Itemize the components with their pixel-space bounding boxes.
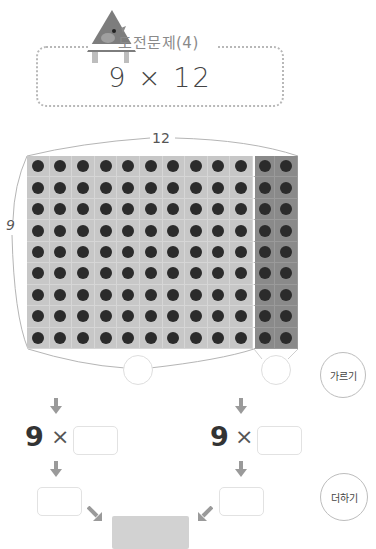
grid-cell (163, 177, 186, 198)
dot (190, 203, 202, 215)
right-part-circle[interactable] (261, 355, 291, 385)
dot (122, 182, 134, 194)
grid-cell (117, 263, 140, 284)
grid-cell (117, 177, 140, 198)
grid-cell (163, 156, 186, 177)
dot (190, 182, 202, 194)
arrow-down-icon (50, 398, 62, 414)
grid-cell (163, 263, 186, 284)
dot (259, 332, 271, 344)
dot (190, 310, 202, 322)
grid-cell (50, 306, 73, 327)
dot (280, 246, 292, 258)
grid-cell (50, 285, 73, 306)
grid-cell (253, 156, 276, 177)
grid-cell (275, 306, 298, 327)
dot (100, 332, 112, 344)
dot (54, 289, 66, 301)
grid-cell (27, 328, 50, 349)
sum-input[interactable] (112, 516, 189, 549)
dot (167, 203, 179, 215)
grid-cell (230, 306, 253, 327)
dot (32, 246, 44, 258)
right-multiplier-input[interactable] (257, 426, 302, 455)
grid-cell (72, 220, 95, 241)
dot (167, 182, 179, 194)
grid-cell (230, 156, 253, 177)
grid-cell (140, 242, 163, 263)
dot (122, 332, 134, 344)
grid-cell (230, 199, 253, 220)
grid-cell (275, 220, 298, 241)
grid-cell (230, 285, 253, 306)
dot (167, 267, 179, 279)
dot (54, 225, 66, 237)
arrow-down-right-icon (87, 506, 103, 522)
grid-cell (230, 263, 253, 284)
grid-cell (50, 242, 73, 263)
grid-cell (208, 177, 231, 198)
grid-cell (27, 306, 50, 327)
dot (235, 246, 247, 258)
dot (212, 160, 224, 172)
grid-cell (253, 242, 276, 263)
left-product-input[interactable] (37, 487, 82, 516)
dot (100, 246, 112, 258)
dot (100, 289, 112, 301)
right-times-sign: × (235, 424, 253, 449)
grid-cell (72, 263, 95, 284)
dot (190, 160, 202, 172)
grid-cell (72, 242, 95, 263)
dot (145, 289, 157, 301)
grid-cell (230, 242, 253, 263)
dot (32, 225, 44, 237)
dot (100, 203, 112, 215)
divide-label: 가르기 (330, 368, 357, 383)
grid-cell (50, 177, 73, 198)
grid-cell (185, 220, 208, 241)
grid-cell (117, 242, 140, 263)
right-factor: 9 (210, 421, 229, 452)
grid-cell (140, 199, 163, 220)
left-part-circle[interactable] (123, 355, 153, 385)
grid-cell (253, 306, 276, 327)
dot (32, 289, 44, 301)
dot (54, 160, 66, 172)
grid-cell (253, 177, 276, 198)
dot (77, 332, 89, 344)
dot (190, 267, 202, 279)
grid-cell (72, 328, 95, 349)
grid-cell (253, 199, 276, 220)
dot (235, 203, 247, 215)
dot (190, 332, 202, 344)
dot (54, 332, 66, 344)
grid-cell (253, 328, 276, 349)
grid-cell (140, 263, 163, 284)
grid-cell (185, 263, 208, 284)
dot (145, 160, 157, 172)
add-label: 더하기 (331, 490, 358, 505)
grid-cell (95, 220, 118, 241)
grid-cell (140, 220, 163, 241)
grid-cell (95, 285, 118, 306)
dot (167, 332, 179, 344)
grid-cell (27, 263, 50, 284)
left-times-sign: × (51, 424, 69, 449)
grid-cell (163, 285, 186, 306)
grid-cell (230, 177, 253, 198)
dot (77, 182, 89, 194)
dot (145, 182, 157, 194)
left-multiplier-input[interactable] (73, 426, 118, 455)
dot (212, 203, 224, 215)
grid-cell (140, 306, 163, 327)
grid-cell (163, 220, 186, 241)
grid-cell (253, 263, 276, 284)
arrow-down-icon (50, 461, 62, 477)
dot (259, 289, 271, 301)
dot (167, 310, 179, 322)
dot (100, 310, 112, 322)
right-product-input[interactable] (219, 487, 264, 516)
grid-cell (27, 220, 50, 241)
dot (167, 246, 179, 258)
grid-cell (27, 285, 50, 306)
